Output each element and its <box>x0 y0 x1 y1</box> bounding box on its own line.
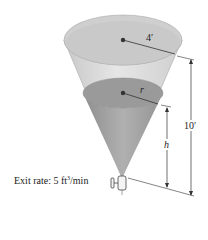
water-radius-label: r <box>140 84 144 95</box>
exit-rate-label: Exit rate: 5 ft3/min <box>14 175 88 186</box>
valve-icon <box>111 176 126 195</box>
exit-rate-unit: /min <box>70 175 88 186</box>
exit-rate-text: Exit rate: 5 ft <box>14 175 67 186</box>
total-height-label: 10′ <box>184 120 196 131</box>
water-height-label: h <box>164 139 169 150</box>
top-radius-label: 4′ <box>146 32 153 43</box>
